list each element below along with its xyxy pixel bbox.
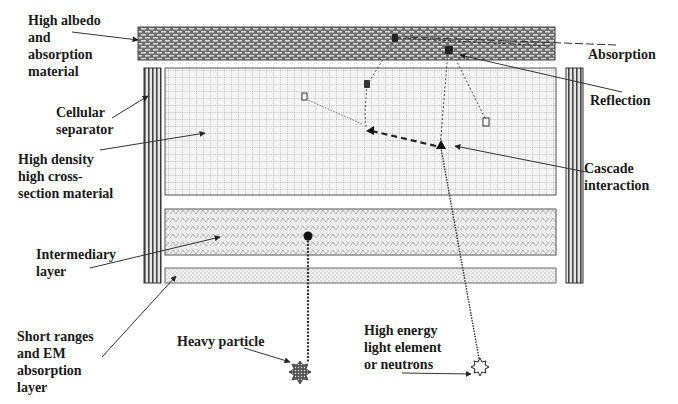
short-range-layer <box>165 268 556 283</box>
detector-diagram <box>0 0 678 404</box>
label-cellular-separator: Cellular separator <box>56 104 114 138</box>
separator-left <box>144 68 161 283</box>
heavy-particle-hit-dot <box>304 232 313 241</box>
label-absorption: Absorption <box>588 46 656 63</box>
light-particle-star-icon <box>471 358 489 376</box>
dense-layer <box>165 68 556 195</box>
intermediary-layer <box>165 209 556 255</box>
label-high-energy: High energy light element or neutrons <box>364 322 441 373</box>
heavy-particle-star-icon <box>289 361 311 384</box>
label-high-density: High density high cross- section materia… <box>18 151 113 202</box>
label-heavy-particle: Heavy particle <box>177 333 264 350</box>
label-intermediary: Intermediary layer <box>36 246 116 280</box>
separator-right <box>566 68 583 283</box>
label-cascade: Cascade interaction <box>584 160 649 194</box>
label-high-albedo: High albedo and absorption material <box>28 12 101 80</box>
absorption-layer <box>138 27 555 60</box>
label-reflection: Reflection <box>590 92 651 109</box>
label-short-ranges: Short ranges and EM absorption layer <box>17 328 94 396</box>
